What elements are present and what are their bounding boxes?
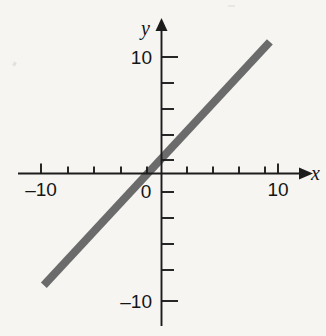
y-axis-ticks: [162, 57, 179, 301]
x-axis-group: [18, 164, 313, 180]
y-axis-group: [156, 18, 179, 326]
x-tick-label-neg10: –10: [25, 179, 57, 200]
x-tick-label-10: 10: [267, 179, 288, 200]
scan-speck: [228, 5, 235, 7]
origin-label: 0: [141, 181, 152, 202]
linear-function-line: [44, 42, 270, 285]
graph-figure: –10 10 0 10 –10 y x: [0, 0, 326, 336]
y-tick-label-10: 10: [131, 47, 152, 68]
y-axis-label: y: [139, 17, 150, 40]
x-axis-label: x: [310, 162, 320, 184]
y-axis-arrowhead: [156, 18, 168, 31]
coordinate-plane-svg: –10 10 0 10 –10 y x: [0, 0, 326, 336]
y-tick-label-neg10: –10: [120, 291, 152, 312]
